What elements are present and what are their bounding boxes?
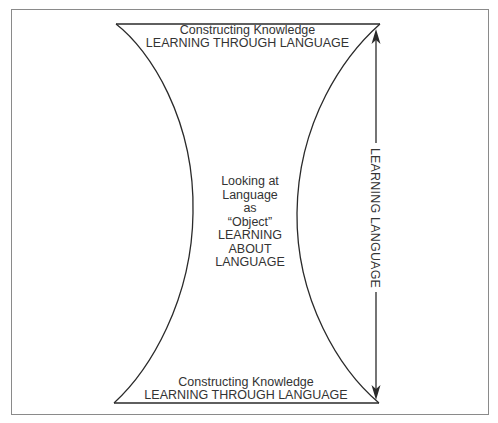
bottom-section-title: LEARNING THROUGH LANGUAGE (114, 389, 378, 402)
top-section-label: Constructing Knowledge LEARNING THROUGH … (116, 24, 379, 50)
middle-line: Language (205, 189, 295, 203)
middle-line: ABOUT (205, 243, 295, 257)
middle-line: “Object” (205, 216, 295, 230)
middle-line: LANGUAGE (205, 256, 295, 270)
middle-line: LEARNING (205, 229, 295, 243)
middle-line: as (205, 202, 295, 216)
left-curve (114, 24, 193, 403)
bottom-section-label: Constructing Knowledge LEARNING THROUGH … (114, 376, 378, 402)
middle-line: Looking at (205, 175, 295, 189)
top-section-title: LEARNING THROUGH LANGUAGE (116, 37, 379, 50)
learning-language-axis-label: LEARNING LANGUAGE (368, 148, 382, 288)
middle-section-label: Looking at Language as “Object” LEARNING… (205, 175, 295, 270)
